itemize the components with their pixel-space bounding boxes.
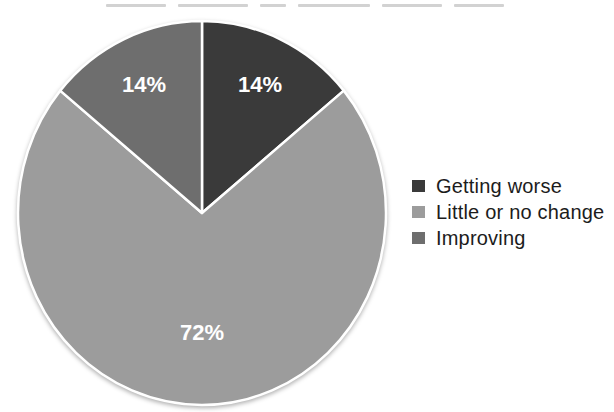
legend-item-improving: Improving <box>412 228 604 248</box>
legend-swatch-improving <box>412 232 425 244</box>
legend-item-little-or-no-change: Little or no change <box>412 202 604 222</box>
legend-label-improving: Improving <box>436 228 526 248</box>
pie-slice-percent-label: 72% <box>180 320 224 345</box>
pie-slice-percent-label: 14% <box>122 72 166 97</box>
chart-legend: Getting worse Little or no change Improv… <box>412 176 604 248</box>
legend-swatch-little-or-no-change <box>412 206 425 218</box>
pie-chart-figure: 14%72%14% Getting worse Little or no cha… <box>0 0 614 412</box>
pie-slices <box>18 21 386 405</box>
pie-slice-percent-label: 14% <box>238 72 282 97</box>
legend-label-getting-worse: Getting worse <box>436 176 562 196</box>
legend-item-getting-worse: Getting worse <box>412 176 604 196</box>
legend-swatch-getting-worse <box>412 180 425 192</box>
legend-label-little-or-no-change: Little or no change <box>436 202 604 222</box>
